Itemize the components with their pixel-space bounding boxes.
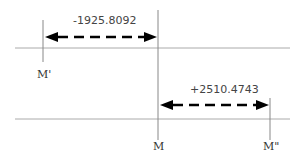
point-label-m-prime: M': [37, 69, 51, 81]
negative-offset-arrow: [45, 32, 157, 42]
positive-offset-arrow: [160, 100, 269, 110]
arrowhead-left-icon: [45, 32, 58, 42]
arrowhead-left-icon: [160, 100, 173, 110]
point-label-m-double-prime: M": [263, 141, 279, 153]
positive-offset-value: +2510.4743: [190, 84, 259, 96]
diagram-canvas: [0, 0, 302, 163]
negative-offset-value: -1925.8092: [73, 15, 136, 27]
arrowhead-right-icon: [256, 100, 269, 110]
point-label-m: M: [153, 141, 164, 153]
arrowhead-right-icon: [144, 32, 157, 42]
